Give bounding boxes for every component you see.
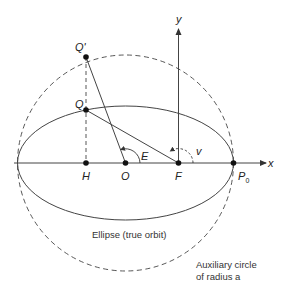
label-q: Q (75, 98, 84, 110)
orbit-diagram: Q' Q H O F P 0 x y E v Ellipse (true orb… (0, 0, 287, 295)
label-p0-subscript: 0 (246, 177, 250, 184)
caption-circle-line1: Auxiliary circle (196, 259, 257, 270)
point-p0 (231, 160, 237, 166)
point-q-prime (83, 54, 89, 60)
caption-ellipse: Ellipse (true orbit) (92, 229, 166, 240)
point-h (83, 160, 89, 166)
q-to-f-line (86, 110, 179, 163)
label-o: O (121, 170, 130, 182)
label-f: F (175, 170, 183, 182)
label-angle-e: E (141, 150, 149, 162)
label-h: H (82, 170, 90, 182)
point-f (176, 160, 182, 166)
label-angle-v: v (196, 145, 203, 157)
q-prime-to-o-line (86, 57, 126, 163)
point-q (83, 107, 89, 113)
label-y-axis: y (175, 13, 183, 25)
caption-circle-line2: of radius a (196, 271, 241, 282)
label-q-prime: Q' (75, 41, 87, 53)
label-x-axis: x (267, 157, 274, 169)
point-o (123, 160, 129, 166)
